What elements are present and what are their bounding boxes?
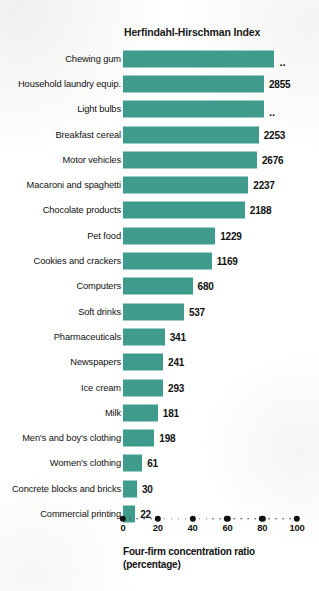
bar [123,404,158,421]
bar-row: Concrete blocks and bricks30 [0,476,319,501]
axis-minor-dot [213,518,215,520]
x-tick-label: 100 [289,522,304,533]
bar-value-label: 2188 [250,205,271,216]
bar-category-label: Concrete blocks and bricks [12,484,121,494]
bar-value-label: 181 [163,407,179,418]
bar-category-label: Household laundry equip. [18,79,121,89]
bar-category-label: Men's and boy's clothing [22,433,121,443]
bar-rows-container: Chewing gum..Household laundry equip.285… [0,46,319,527]
bar [123,151,257,168]
bar-row: Computers680 [0,274,319,299]
bar-category-label: Breakfast cereal [55,130,121,140]
bar [123,278,193,295]
bar-row: Pet food1229 [0,223,319,248]
bar-row: Motor vehicles2676 [0,147,319,172]
bar [123,303,184,320]
bar-value-label: 61 [147,458,158,469]
bar-value-label: 1169 [217,256,238,267]
bar [123,354,163,371]
x-axis-label-line1: Four-firm concentration ratio [123,546,255,559]
bar-category-label: Ice cream [81,383,121,393]
x-tick-label: 0 [120,522,125,533]
bar-row: Soft drinks537 [0,299,319,324]
bar-row: Milk181 [0,400,319,425]
bar-category-label: Milk [105,408,121,418]
axis-minor-dot [136,518,138,520]
bar-row: Cookies and crackers1169 [0,248,319,273]
axis-minor-dot [268,518,270,520]
axis-minor-dot [289,518,291,520]
bar-value-label: 293 [168,382,184,393]
axis-minor-dot [275,518,277,520]
bar [123,50,274,67]
bar [123,253,212,270]
bar-value-label: 241 [168,357,184,368]
bar [123,328,165,345]
bar-category-label: Light bulbs [77,104,121,114]
axis-minor-dot [171,518,173,520]
axis-minor-dot [129,518,131,520]
bar [123,101,264,118]
bar-category-label: Pharmaceuticals [54,332,121,342]
bar-category-label: Commercial printing [40,509,121,519]
axis-minor-dot [240,518,242,520]
bar-row: Household laundry equip.2855 [0,71,319,96]
bar-category-label: Computers [76,281,121,291]
axis-minor-dot [254,518,256,520]
axis-tick-dot [259,515,265,521]
bar-value-label: 2253 [264,129,285,140]
bar-row: Men's and boy's clothing198 [0,425,319,450]
axis-minor-dot [247,518,249,520]
axis-minor-dot [178,518,180,520]
axis-tick-dot [189,515,195,521]
bar-value-label: .. [279,56,285,68]
bar-row: Women's clothing61 [0,451,319,476]
bar-row: Newspapers241 [0,350,319,375]
bar [123,126,259,143]
bar-category-label: Macaroni and spaghetti [27,180,121,190]
bar-value-label: 341 [170,331,186,342]
chart-title: Herfindahl-Hirschman Index [124,26,260,38]
bar [123,455,142,472]
x-tick-label: 80 [257,522,267,533]
bar-row: Pharmaceuticals341 [0,324,319,349]
bar-category-label: Chewing gum [65,54,121,64]
axis-minor-dot [206,518,208,520]
bar-row: Ice cream293 [0,375,319,400]
bar [123,202,245,219]
bar-row: Chocolate products2188 [0,198,319,223]
bar [123,177,248,194]
herfindahl-hirschman-bar-chart: Herfindahl-Hirschman Index Chewing gum..… [0,0,319,591]
axis-tick-dot [120,515,126,521]
x-tick-label: 20 [153,522,163,533]
x-axis-dotted-line [123,514,297,523]
bar-category-label: Women's clothing [50,458,121,468]
x-tick-label: 40 [188,522,198,533]
axis-minor-dot [164,518,166,520]
x-tick-label: 60 [222,522,232,533]
axis-minor-dot [282,518,284,520]
bar [123,480,137,497]
bar-row: Chewing gum.. [0,46,319,71]
axis-minor-dot [220,518,222,520]
bar-value-label: 1229 [220,230,241,241]
axis-minor-dot [150,518,152,520]
bar-category-label: Pet food [87,231,121,241]
bar-value-label: 537 [189,306,205,317]
bar-value-label: 30 [142,483,153,494]
bar [123,379,163,396]
bar-category-label: Chocolate products [43,205,121,215]
bar [123,75,264,92]
axis-tick-dot [224,515,230,521]
x-axis-label-line2: (percentage) [123,559,255,572]
bar-row: Light bulbs.. [0,97,319,122]
bar-value-label: 198 [159,433,175,444]
bar-category-label: Cookies and crackers [34,256,121,266]
axis-minor-dot [234,518,236,520]
bar [123,227,215,244]
axis-minor-dot [199,518,201,520]
bar-value-label: 2855 [269,78,290,89]
bar-category-label: Soft drinks [78,307,121,317]
bar-value-label: 2237 [253,180,274,191]
bar-value-label: 2676 [262,154,283,165]
